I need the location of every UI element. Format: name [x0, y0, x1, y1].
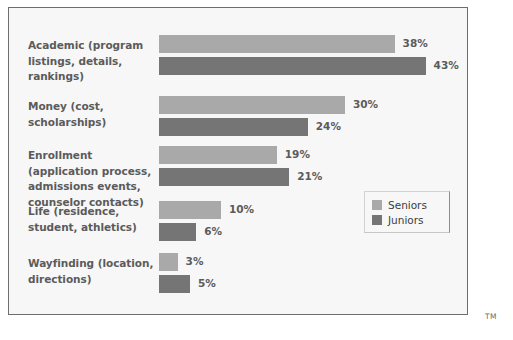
category-label-line: admissions events,	[28, 179, 162, 195]
category-label-line: rankings)	[28, 69, 162, 85]
bar-value-label: 19%	[285, 148, 310, 160]
bar-seniors[interactable]	[159, 201, 221, 219]
bar-value-label: 38%	[403, 37, 428, 49]
bar-value-label: 5%	[198, 277, 216, 289]
bar-value-label: 10%	[229, 203, 254, 215]
bar-juniors[interactable]	[159, 168, 289, 186]
legend-item-seniors[interactable]: Seniors	[372, 197, 427, 212]
category-label-line: (application process,	[28, 164, 162, 180]
bar-seniors[interactable]	[159, 96, 345, 114]
bar-juniors[interactable]	[159, 223, 196, 241]
category-label: Enrollment(application process,admission…	[28, 148, 162, 210]
category-label-line: student, athletics)	[28, 220, 162, 236]
category-label-line: Money (cost,	[28, 99, 162, 115]
category-label-line: Life (residence,	[28, 204, 162, 220]
category-label: Academic (programlistings, details,ranki…	[28, 38, 162, 85]
bar-seniors[interactable]	[159, 146, 277, 164]
bar-value-label: 21%	[297, 170, 322, 182]
bar-juniors[interactable]	[159, 57, 426, 75]
trademark-mark: TM	[485, 312, 497, 321]
legend-item-juniors[interactable]: Juniors	[372, 212, 427, 227]
bar-seniors[interactable]	[159, 253, 178, 271]
bar-chart-plot-area: Academic (programlistings, details,ranki…	[9, 8, 467, 314]
category-label-line: Wayfinding (location,	[28, 256, 162, 272]
category-label-line: scholarships)	[28, 115, 162, 131]
bar-value-label: 43%	[434, 59, 459, 71]
legend-swatch-juniors-icon	[372, 215, 382, 225]
category-label: Wayfinding (location,directions)	[28, 256, 162, 287]
chart-legend: Seniors Juniors	[364, 191, 450, 233]
category-label-line: Enrollment	[28, 148, 162, 164]
bar-seniors[interactable]	[159, 35, 395, 53]
category-label: Money (cost,scholarships)	[28, 99, 162, 130]
bar-juniors[interactable]	[159, 275, 190, 293]
chart-panel: Academic (programlistings, details,ranki…	[8, 7, 468, 315]
bar-value-label: 24%	[316, 120, 341, 132]
bar-value-label: 3%	[186, 255, 204, 267]
legend-swatch-seniors-icon	[372, 200, 382, 210]
category-label: Life (residence,student, athletics)	[28, 204, 162, 235]
bar-value-label: 30%	[353, 98, 378, 110]
category-label-line: listings, details,	[28, 54, 162, 70]
category-label-line: directions)	[28, 272, 162, 288]
legend-label-seniors: Seniors	[388, 199, 427, 211]
bar-value-label: 6%	[204, 225, 222, 237]
category-label-line: Academic (program	[28, 38, 162, 54]
legend-label-juniors: Juniors	[388, 214, 424, 226]
bar-juniors[interactable]	[159, 118, 308, 136]
